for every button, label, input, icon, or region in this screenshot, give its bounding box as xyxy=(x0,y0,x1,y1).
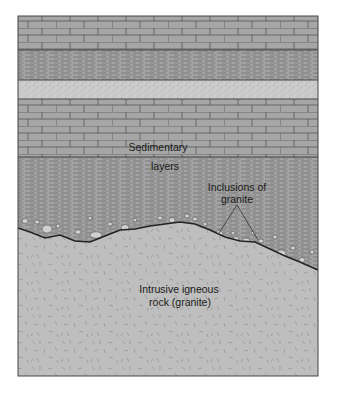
geology-cross-section xyxy=(0,0,337,393)
inclusions-label-line2: granite xyxy=(221,193,253,205)
sedimentary-label-line2: layers xyxy=(151,160,179,172)
igneous-label-line1: Intrusive igneous xyxy=(139,283,218,295)
sedimentary-label-line1: Sedimentary xyxy=(129,141,188,153)
igneous-label-line2: rock (granite) xyxy=(149,296,211,308)
inclusions-label-line1: Inclusions of xyxy=(208,181,266,193)
shale-layer-upper xyxy=(18,50,318,80)
limestone-layer-upper xyxy=(18,16,318,50)
sandstone-layer xyxy=(18,80,318,99)
